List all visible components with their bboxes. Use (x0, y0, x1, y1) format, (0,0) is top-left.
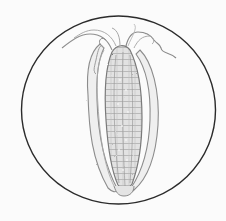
corn-in-circle-illustration (0, 0, 226, 221)
illustration-canvas: ear of corn sketch (0, 0, 226, 221)
